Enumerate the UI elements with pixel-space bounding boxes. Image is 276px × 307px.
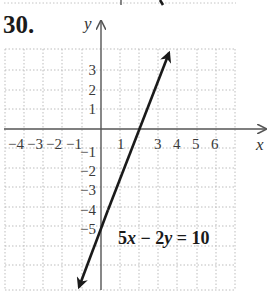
- x-tick-labels: −4 −3 −2 −1 1 3 4 5 6: [8, 136, 219, 152]
- svg-text:3: 3: [89, 62, 97, 78]
- svg-text:−3: −3: [80, 182, 96, 198]
- problem-number: 30.: [3, 11, 34, 38]
- svg-text:5: 5: [192, 136, 200, 152]
- equation-label: 5x − 2y = 10: [118, 228, 210, 248]
- svg-text:6: 6: [211, 136, 219, 152]
- previous-figure-remnant: [4, 0, 236, 5]
- svg-text:−4: −4: [8, 136, 24, 152]
- svg-text:−5: −5: [80, 221, 96, 237]
- graph-figure: 30. y x −4 −3 −2 −1: [0, 0, 276, 307]
- svg-text:−2: −2: [46, 136, 62, 152]
- svg-text:1: 1: [117, 136, 125, 152]
- svg-text:−3: −3: [27, 136, 43, 152]
- svg-text:3: 3: [154, 136, 162, 152]
- y-tick-labels: 3 2 1 −1 −2 −3 −4 −5: [80, 62, 96, 237]
- svg-text:−4: −4: [80, 202, 96, 218]
- svg-text:4: 4: [173, 136, 181, 152]
- x-axis-label: x: [255, 135, 264, 154]
- grid: [5, 49, 235, 290]
- svg-text:−1: −1: [80, 144, 96, 160]
- svg-text:−2: −2: [80, 163, 96, 179]
- y-axis-label: y: [82, 14, 92, 33]
- svg-text:1: 1: [89, 101, 97, 117]
- svg-text:2: 2: [89, 82, 97, 98]
